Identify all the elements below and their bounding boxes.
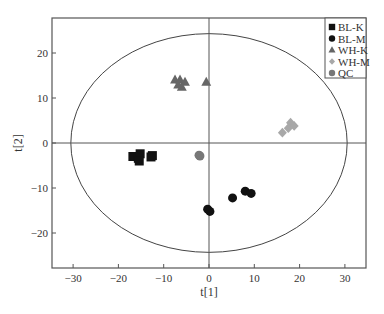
legend-label-wh-k: WH-K [338, 44, 368, 56]
y-tick-label: −10 [31, 182, 49, 194]
series-qc [195, 151, 205, 161]
zero-reference-lines [52, 18, 366, 268]
y-tick-label: 10 [37, 92, 49, 104]
series-wh-m [278, 118, 299, 138]
data-point [247, 189, 256, 198]
data-point [195, 152, 204, 161]
data-point [205, 207, 214, 216]
data-point [228, 193, 237, 202]
data-points [128, 75, 298, 216]
x-axis-label: t[1] [200, 285, 217, 299]
legend-marker-qc [329, 70, 335, 76]
y-tick-label: 20 [37, 47, 49, 59]
x-tick-label: 10 [249, 272, 261, 284]
legend-label-qc: QC [338, 67, 353, 79]
y-axis-label: t[2] [11, 134, 25, 151]
legend: BL-KBL-MWH-KWH-MQC [325, 18, 370, 79]
data-point [201, 77, 211, 86]
x-tick-label: 30 [339, 272, 351, 284]
legend-label-bl-m: BL-M [338, 33, 366, 45]
series-bl-k [128, 149, 156, 165]
x-axis-ticks: −30−20−100102030 [64, 264, 350, 284]
data-point [147, 152, 156, 161]
series-bl-m [203, 187, 255, 216]
legend-marker-bl-m [329, 35, 335, 41]
x-tick-label: −20 [110, 272, 128, 284]
x-tick-label: −10 [155, 272, 173, 284]
x-tick-label: 20 [294, 272, 306, 284]
x-tick-label: 0 [206, 272, 212, 284]
y-tick-label: −20 [31, 227, 49, 239]
data-point [135, 157, 144, 166]
legend-marker-bl-k [329, 24, 335, 30]
x-tick-label: −30 [64, 272, 82, 284]
pca-score-plot: −30−20−100102030 −20−1001020 t[1] t[2] B… [0, 0, 384, 314]
legend-label-bl-k: BL-K [338, 21, 364, 33]
y-tick-label: 0 [43, 137, 49, 149]
legend-label-wh-m: WH-M [338, 56, 370, 68]
series-wh-k [170, 75, 211, 91]
